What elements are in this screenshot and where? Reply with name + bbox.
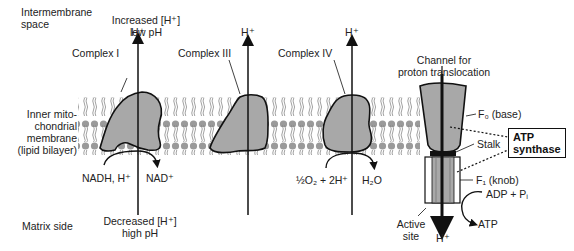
atp-synthase-proton-bottom-label: H⁺: [436, 232, 450, 244]
stalk-label: Stalk: [477, 138, 500, 150]
atp-product-label: ATP: [478, 218, 498, 230]
adp-pi-label: ADP + Pᵢ: [486, 188, 528, 200]
diagram-graphics: [0, 0, 574, 251]
intermembrane-condition-label: Increased [H⁺] low pH: [106, 14, 186, 38]
intermembrane-space-label: Intermembrane space: [21, 6, 92, 30]
complex-i-product-label: NAD⁺: [146, 172, 174, 184]
matrix-condition-label: Decreased [H⁺] high pH: [100, 215, 180, 239]
atp-synthase-box: ATP synthase: [508, 128, 566, 158]
complex-iii-label: Complex III: [178, 47, 231, 59]
complex-i-label: Complex I: [72, 47, 119, 59]
f0-base-label: F₀ (base): [478, 108, 521, 120]
complex-iv-product-label: H₂O: [362, 174, 382, 186]
complex-iv-label: Complex IV: [278, 47, 332, 59]
complex-i-shape: [100, 38, 161, 215]
active-site-label: Active site: [396, 218, 426, 242]
complex-iv-substrate-label: ½O₂ + 2H⁺: [296, 174, 348, 186]
membrane-label: Inner mito- chondrial membrane (lipid bi…: [0, 108, 77, 156]
complex-iv-shape: [323, 40, 374, 215]
matrix-side-label: Matrix side: [22, 220, 73, 232]
f1-knob-label: F₁ (knob): [476, 174, 519, 186]
complex-i-proton-label: H⁺: [131, 26, 145, 38]
complex-iii-proton-label: H⁺: [241, 26, 255, 38]
complex-i-substrate-label: NADH, H⁺: [82, 172, 131, 184]
etc-diagram: Intermembrane space Increased [H⁺] low p…: [0, 0, 574, 251]
complex-iv-proton-label: H⁺: [345, 26, 359, 38]
channel-label: Channel for proton translocation: [394, 54, 494, 78]
